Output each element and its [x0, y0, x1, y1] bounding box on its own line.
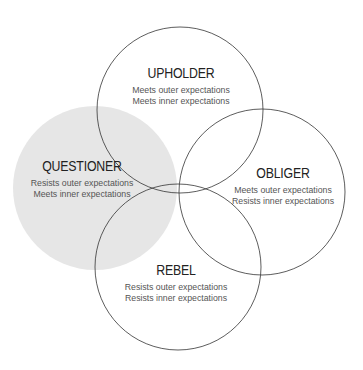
- rebel-title: REBEL: [127, 262, 225, 278]
- rebel-line2: Resists inner expectations: [125, 292, 228, 303]
- obliger-title: OBLIGER: [234, 165, 332, 181]
- obliger-label: OBLIGER Meets outer expectations Resists…: [228, 165, 339, 206]
- upholder-line1: Meets outer expectations: [132, 84, 230, 95]
- upholder-line2: Meets inner expectations: [132, 95, 230, 106]
- questioner-label: QUESTIONER Resists outer expectations Me…: [26, 158, 137, 199]
- questioner-title: QUESTIONER: [33, 158, 131, 174]
- questioner-line2: Meets inner expectations: [31, 188, 134, 199]
- questioner-line1: Resists outer expectations: [31, 177, 134, 188]
- upholder-label: UPHOLDER Meets outer expectations Meets …: [128, 65, 234, 106]
- rebel-label: REBEL Resists outer expectations Resists…: [120, 262, 231, 303]
- rebel-line1: Resists outer expectations: [125, 281, 228, 292]
- obliger-line2: Resists inner expectations: [232, 195, 334, 206]
- upholder-title: UPHOLDER: [134, 65, 227, 81]
- obliger-line1: Meets outer expectations: [232, 184, 334, 195]
